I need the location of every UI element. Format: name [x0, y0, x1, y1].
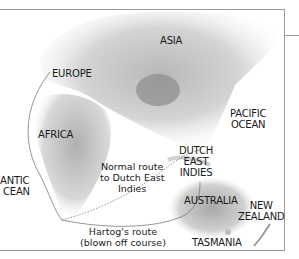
- label-pacific-ocean: PACIFIC OCEAN: [230, 108, 266, 130]
- label-nz-line1: NEW: [238, 200, 284, 211]
- label-dutch-east-indies: DUTCH EAST INDIES: [179, 145, 213, 178]
- label-tasmania: TASMANIA: [192, 237, 242, 248]
- label-dei-line2: EAST: [179, 156, 213, 167]
- normal-route-line3: Indies: [100, 183, 164, 194]
- label-nz-line2: ZEALAND: [238, 211, 284, 222]
- label-hartog-route: Hartog's route (blown off course): [80, 226, 166, 248]
- new-zealand-islands: [254, 224, 270, 246]
- label-africa: AFRICA: [38, 129, 73, 140]
- label-dei-line1: DUTCH: [179, 145, 213, 156]
- frame-bottom-border: [0, 250, 285, 251]
- normal-route-line2: to Dutch East: [100, 172, 164, 183]
- africa-landmass: [33, 94, 111, 222]
- label-australia: AUSTRALIA: [184, 195, 238, 206]
- tasmania-island: [225, 229, 231, 235]
- label-atlantic-ocean: ANTIC CEAN: [0, 175, 30, 197]
- hartog-route-line2: (blown off course): [80, 237, 166, 248]
- label-new-zealand: NEW ZEALAND: [238, 200, 284, 222]
- himalaya-relief: [136, 74, 180, 106]
- label-asia: ASIA: [160, 35, 182, 46]
- hartog-route-line1: Hartog's route: [80, 226, 166, 237]
- label-atlantic-line1: ANTIC: [0, 175, 30, 186]
- label-normal-route: Normal route to Dutch East Indies: [100, 161, 164, 194]
- label-dei-line3: INDIES: [179, 167, 213, 178]
- label-europe: EUROPE: [52, 68, 92, 79]
- label-pacific-line2: OCEAN: [230, 119, 266, 130]
- frame-top-border: [0, 9, 285, 10]
- frame-tick-mark: [285, 35, 299, 36]
- label-pacific-line1: PACIFIC: [230, 108, 266, 119]
- label-atlantic-line2: CEAN: [0, 186, 30, 197]
- normal-route-line1: Normal route: [100, 161, 164, 172]
